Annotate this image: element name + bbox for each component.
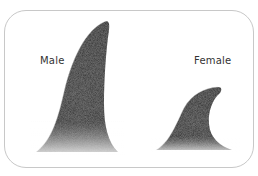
male-dorsal-fin	[30, 20, 125, 155]
female-dorsal-fin	[150, 85, 240, 153]
female-label: Female	[194, 55, 231, 66]
dorsal-fins-illustration	[0, 0, 258, 176]
male-label: Male	[40, 55, 65, 66]
